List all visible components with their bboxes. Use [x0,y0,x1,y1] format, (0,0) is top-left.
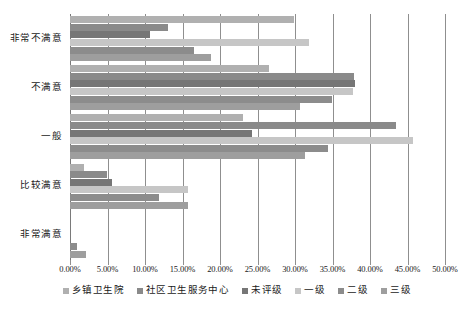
x-axis-tick-label: 45.00% [395,264,421,275]
legend-label: 未评级 [251,285,282,296]
bar[interactable] [70,164,84,171]
grid-line-50 [445,14,446,260]
bar-row [70,243,445,250]
bar[interactable] [70,73,354,80]
bar-row [70,164,445,171]
bar-row [70,179,445,186]
legend-item-0[interactable]: 乡镇卫生院 [63,285,124,296]
legend-swatch-icon [63,288,69,294]
bar[interactable] [70,103,300,110]
x-axis-tick-label: 5.00% [97,264,118,275]
bar[interactable] [70,202,188,209]
legend-label: 乡镇卫生院 [72,285,124,296]
bar-row [70,73,445,80]
bar-group [70,162,445,211]
bar-row [70,54,445,61]
bar-group [70,211,445,260]
x-axis-tick-label: 50.00% [432,264,458,275]
chart-container: 非常不满意不满意一般比较满意非常满意 0.00%5.00%10.00%15.00… [0,0,474,312]
bar[interactable] [70,243,77,250]
bar[interactable] [70,88,353,95]
y-axis-label-4: 非常满意 [20,229,62,240]
bar[interactable] [70,186,188,193]
legend-label: 三级 [390,285,411,296]
bar-row [70,24,445,31]
legend-item-1[interactable]: 社区卫生服务中心 [137,285,229,296]
x-axis-tick-label: 25.00% [245,264,271,275]
bar[interactable] [70,114,243,121]
x-axis-tick-labels: 0.00%5.00%10.00%15.00%20.00%25.00%30.00%… [0,264,474,278]
bar[interactable] [70,152,305,159]
legend-swatch-icon [381,288,387,294]
figure-caption [0,300,474,312]
bar-row [70,251,445,258]
x-axis-tick-label: 10.00% [132,264,158,275]
bar[interactable] [70,137,413,144]
bar-row [70,16,445,23]
bar[interactable] [70,16,294,23]
bar[interactable] [70,122,396,129]
x-axis-tick-label: 15.00% [170,264,196,275]
bar-row [70,80,445,87]
bar[interactable] [70,39,309,46]
y-axis-label-2: 一般 [41,131,62,142]
y-axis-label-1: 不满意 [31,82,63,93]
bar-row [70,194,445,201]
bar[interactable] [70,145,328,152]
bar[interactable] [70,179,112,186]
bar[interactable] [70,80,355,87]
bar-row [70,228,445,235]
x-axis-tick-label: 20.00% [207,264,233,275]
legend-label: 二级 [347,285,368,296]
legend-swatch-icon [295,288,301,294]
y-axis-label-3: 比较满意 [20,180,62,191]
y-axis-label-0: 非常不满意 [10,33,63,44]
bar[interactable] [70,251,86,258]
legend-item-4[interactable]: 二级 [338,285,368,296]
bar-row [70,186,445,193]
bar-row [70,236,445,243]
y-axis-category-labels: 非常不满意不满意一般比较满意非常满意 [0,14,66,260]
bar-row [70,145,445,152]
legend-swatch-icon [338,288,344,294]
bar[interactable] [70,65,269,72]
bar-row [70,213,445,220]
legend-item-2[interactable]: 未评级 [242,285,282,296]
bar-row [70,114,445,121]
bar-row [70,171,445,178]
chart-legend: 乡镇卫生院社区卫生服务中心未评级一级二级三级 [0,283,474,298]
bar[interactable] [70,24,168,31]
bar[interactable] [70,130,252,137]
bar-group [70,63,445,112]
bar-row [70,47,445,54]
bar[interactable] [70,47,194,54]
bar-row [70,103,445,110]
bar[interactable] [70,31,150,38]
bar-row [70,65,445,72]
x-axis-tick-label: 40.00% [357,264,383,275]
bar[interactable] [70,171,107,178]
bar-row [70,96,445,103]
bar-row [70,88,445,95]
legend-item-3[interactable]: 一级 [295,285,325,296]
bar-row [70,122,445,129]
legend-swatch-icon [137,288,143,294]
bar-row [70,137,445,144]
bar[interactable] [70,96,332,103]
bar-row [70,220,445,227]
legend-item-5[interactable]: 三级 [381,285,411,296]
bar-group [70,14,445,63]
bar-row [70,152,445,159]
x-axis-tick-label: 35.00% [320,264,346,275]
legend-swatch-icon [242,288,248,294]
bar-row [70,31,445,38]
bar[interactable] [70,194,159,201]
legend-label: 社区卫生服务中心 [146,285,229,296]
plot-area [70,14,445,260]
legend-label: 一级 [304,285,325,296]
bar-row [70,39,445,46]
x-axis-tick-label: 30.00% [282,264,308,275]
bar[interactable] [70,54,211,61]
bar-group [70,112,445,161]
bar-row [70,130,445,137]
